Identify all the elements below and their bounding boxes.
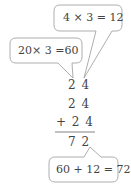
bottom-bubble-text: 60 + 12 = 72: [56, 164, 130, 176]
top-bubble-text: 4 × 3 = 12: [63, 12, 123, 24]
left-bubble-text: 20× 3 =60: [18, 45, 78, 57]
addend-1: 2 4: [68, 79, 90, 92]
addend-3: + 2 4: [56, 116, 94, 129]
addend-2: 2 4: [68, 98, 90, 111]
bubble-outlines: [0, 0, 131, 190]
sum-result: 7 2: [68, 136, 90, 149]
